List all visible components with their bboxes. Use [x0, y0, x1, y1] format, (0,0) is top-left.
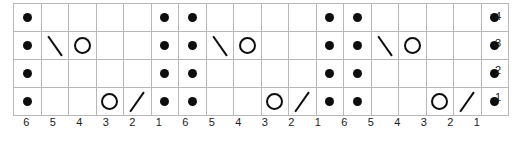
yarn-over-circle-symbol [427, 88, 454, 115]
column-label: 2 [278, 115, 305, 129]
yarn-over-circle-symbol [69, 32, 96, 59]
stitch-cell[interactable] [69, 60, 97, 88]
stitch-cell[interactable] [179, 60, 207, 88]
stitch-cell[interactable] [426, 32, 454, 60]
stitch-cell[interactable] [454, 4, 482, 32]
yarn-over-circle-symbol [262, 88, 289, 115]
purl-dot-symbol [179, 60, 206, 87]
stitch-cell[interactable] [151, 4, 179, 32]
stitch-cell[interactable] [289, 88, 317, 116]
right-decrease-slash-symbol [454, 88, 481, 115]
column-label: 5 [358, 115, 385, 129]
stitch-cell[interactable] [96, 60, 124, 88]
stitch-cell[interactable] [206, 4, 234, 32]
stitch-cell[interactable] [399, 60, 427, 88]
stitch-cell[interactable] [261, 88, 289, 116]
stitch-cell[interactable] [289, 4, 317, 32]
stitch-cell[interactable] [371, 60, 399, 88]
stitch-cell[interactable] [14, 88, 42, 116]
stitch-cell[interactable] [124, 4, 152, 32]
stitch-row [14, 4, 509, 32]
stitch-cell[interactable] [344, 32, 372, 60]
purl-dot-symbol [344, 32, 371, 59]
stitch-cell[interactable] [399, 32, 427, 60]
stitch-cell[interactable] [426, 88, 454, 116]
stitch-cell[interactable] [316, 88, 344, 116]
stitch-grid-table [13, 3, 509, 116]
column-number-labels: 654321654321654321 [13, 115, 490, 129]
purl-dot-symbol [344, 60, 371, 87]
stitch-cell[interactable] [206, 60, 234, 88]
yarn-over-circle-symbol [97, 88, 124, 115]
stitch-cell[interactable] [316, 60, 344, 88]
purl-dot-symbol [152, 32, 179, 59]
purl-dot-symbol [14, 88, 41, 115]
stitch-cell[interactable] [124, 88, 152, 116]
stitch-cell[interactable] [179, 88, 207, 116]
purl-dot-symbol [152, 60, 179, 87]
stitch-cell[interactable] [316, 4, 344, 32]
stitch-cell[interactable] [124, 60, 152, 88]
stitch-cell[interactable] [454, 32, 482, 60]
stitch-cell[interactable] [454, 60, 482, 88]
stitch-cell[interactable] [41, 4, 69, 32]
purl-dot-symbol [179, 88, 206, 115]
stitch-cell[interactable] [426, 60, 454, 88]
purl-dot-symbol [14, 32, 41, 59]
stitch-cell[interactable] [399, 4, 427, 32]
stitch-cell[interactable] [371, 32, 399, 60]
stitch-cell[interactable] [234, 60, 262, 88]
stitch-cell[interactable] [124, 32, 152, 60]
stitch-cell[interactable] [69, 4, 97, 32]
stitch-row [14, 88, 509, 116]
column-label: 3 [252, 115, 279, 129]
stitch-cell[interactable] [371, 88, 399, 116]
column-label: 6 [331, 115, 358, 129]
stitch-cell[interactable] [344, 60, 372, 88]
purl-dot-symbol [317, 60, 344, 87]
stitch-cell[interactable] [151, 88, 179, 116]
stitch-cell[interactable] [69, 32, 97, 60]
stitch-cell[interactable] [344, 4, 372, 32]
purl-dot-symbol [14, 60, 41, 87]
stitch-cell[interactable] [41, 32, 69, 60]
stitch-cell[interactable] [151, 60, 179, 88]
stitch-cell[interactable] [206, 32, 234, 60]
stitch-cell[interactable] [344, 88, 372, 116]
stitch-cell[interactable] [69, 88, 97, 116]
stitch-grid-container [13, 3, 509, 116]
stitch-cell[interactable] [41, 60, 69, 88]
stitch-cell[interactable] [14, 32, 42, 60]
stitch-cell[interactable] [316, 32, 344, 60]
stitch-cell[interactable] [179, 4, 207, 32]
stitch-cell[interactable] [234, 32, 262, 60]
stitch-cell[interactable] [151, 32, 179, 60]
stitch-cell[interactable] [234, 4, 262, 32]
stitch-cell[interactable] [41, 88, 69, 116]
stitch-cell[interactable] [96, 4, 124, 32]
stitch-cell[interactable] [179, 32, 207, 60]
stitch-cell[interactable] [234, 88, 262, 116]
stitch-cell[interactable] [289, 60, 317, 88]
row-label: 3 [495, 30, 519, 57]
column-label: 1 [464, 115, 491, 129]
stitch-cell[interactable] [454, 88, 482, 116]
stitch-cell[interactable] [371, 4, 399, 32]
stitch-cell[interactable] [426, 4, 454, 32]
left-decrease-backslash-symbol [207, 32, 234, 59]
yarn-over-circle-symbol [234, 32, 261, 59]
column-label: 2 [437, 115, 464, 129]
stitch-cell[interactable] [261, 4, 289, 32]
stitch-cell[interactable] [14, 60, 42, 88]
stitch-cell[interactable] [14, 4, 42, 32]
stitch-cell[interactable] [399, 88, 427, 116]
stitch-row [14, 32, 509, 60]
stitch-cell[interactable] [261, 32, 289, 60]
left-decrease-backslash-symbol [42, 32, 69, 59]
column-label: 4 [225, 115, 252, 129]
stitch-cell[interactable] [261, 60, 289, 88]
stitch-cell[interactable] [289, 32, 317, 60]
stitch-cell[interactable] [206, 88, 234, 116]
stitch-cell[interactable] [96, 88, 124, 116]
stitch-cell[interactable] [96, 32, 124, 60]
